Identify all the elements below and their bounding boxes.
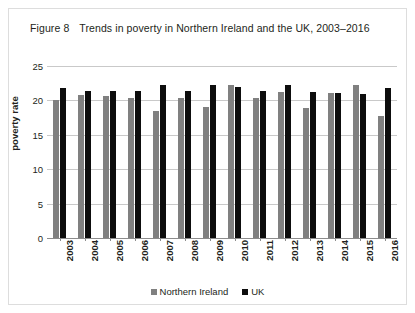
bar-northern-ireland-2009 xyxy=(203,107,209,238)
bars-layer xyxy=(47,66,397,238)
legend-entry-northern-ireland: Northern Ireland xyxy=(151,286,229,297)
bar-uk-2008 xyxy=(185,91,191,238)
bar-northern-ireland-2014 xyxy=(328,93,334,238)
bar-uk-2011 xyxy=(260,91,266,238)
bar-northern-ireland-2008 xyxy=(178,98,184,238)
bar-group-2014 xyxy=(322,66,347,238)
bar-group-2007 xyxy=(147,66,172,238)
x-tick-mark-2011 xyxy=(260,238,261,241)
x-tick-label-2009: 2009 xyxy=(214,240,225,261)
figure-title-text: Trends in poverty in Northern Ireland an… xyxy=(79,22,369,34)
bar-northern-ireland-2012 xyxy=(278,92,284,238)
x-tick-label-2004: 2004 xyxy=(89,240,100,261)
chart-legend: Northern IrelandUK xyxy=(0,286,415,297)
legend-swatch-icon xyxy=(151,289,157,295)
bar-uk-2004 xyxy=(85,91,91,238)
x-tick-mark-2015 xyxy=(360,238,361,241)
y-tick-label-0: 0 xyxy=(0,233,43,244)
bar-uk-2013 xyxy=(310,92,316,238)
x-tick-mark-2005 xyxy=(110,238,111,241)
x-tick-label-2011: 2011 xyxy=(264,240,275,261)
x-tick-label-2013: 2013 xyxy=(314,240,325,261)
bar-northern-ireland-2013 xyxy=(303,108,309,238)
x-tick-mark-2009 xyxy=(210,238,211,241)
x-tick-label-2006: 2006 xyxy=(139,240,150,261)
bar-uk-2006 xyxy=(135,91,141,238)
bar-northern-ireland-2004 xyxy=(78,95,84,238)
y-tick-label-10: 10 xyxy=(0,164,43,175)
bar-uk-2005 xyxy=(110,91,116,238)
figure-label: Figure 8 xyxy=(30,22,69,34)
bar-group-2004 xyxy=(72,66,97,238)
x-tick-label-2008: 2008 xyxy=(189,240,200,261)
x-tick-mark-2010 xyxy=(235,238,236,241)
bar-group-2008 xyxy=(172,66,197,238)
x-tick-label-2003: 2003 xyxy=(64,240,75,261)
bar-northern-ireland-2015 xyxy=(353,85,359,238)
bar-uk-2003 xyxy=(60,88,66,238)
bar-group-2016 xyxy=(372,66,397,238)
x-tick-mark-2007 xyxy=(160,238,161,241)
bar-group-2012 xyxy=(272,66,297,238)
bar-uk-2015 xyxy=(360,94,366,238)
bar-northern-ireland-2011 xyxy=(253,98,259,238)
legend-label: UK xyxy=(251,286,264,297)
x-tick-mark-2012 xyxy=(285,238,286,241)
bar-northern-ireland-2007 xyxy=(153,111,159,238)
x-tick-label-2015: 2015 xyxy=(364,240,375,261)
x-tick-label-2014: 2014 xyxy=(339,240,350,261)
y-tick-label-15: 15 xyxy=(0,129,43,140)
x-tick-label-2016: 2016 xyxy=(389,240,400,261)
bar-northern-ireland-2016 xyxy=(378,116,384,238)
x-tick-mark-2013 xyxy=(310,238,311,241)
bar-group-2009 xyxy=(197,66,222,238)
y-axis-tick-labels: 0510152025 xyxy=(0,66,43,238)
legend-label: Northern Ireland xyxy=(160,286,229,297)
x-tick-label-2010: 2010 xyxy=(239,240,250,261)
x-tick-mark-2004 xyxy=(85,238,86,241)
bar-northern-ireland-2010 xyxy=(228,85,234,238)
x-tick-label-2012: 2012 xyxy=(289,240,300,261)
bar-group-2006 xyxy=(122,66,147,238)
bar-group-2015 xyxy=(347,66,372,238)
bar-northern-ireland-2006 xyxy=(128,98,134,238)
bar-uk-2012 xyxy=(285,85,291,238)
bar-uk-2009 xyxy=(210,85,216,238)
x-tick-mark-2008 xyxy=(185,238,186,241)
bar-uk-2007 xyxy=(160,85,166,238)
bar-uk-2010 xyxy=(235,87,241,238)
y-tick-label-5: 5 xyxy=(0,198,43,209)
x-tick-mark-2014 xyxy=(335,238,336,241)
legend-entry-uk: UK xyxy=(242,286,264,297)
bar-group-2013 xyxy=(297,66,322,238)
x-tick-label-2005: 2005 xyxy=(114,240,125,261)
bar-uk-2016 xyxy=(385,88,391,238)
y-tick-label-20: 20 xyxy=(0,95,43,106)
x-tick-mark-2006 xyxy=(135,238,136,241)
bar-northern-ireland-2003 xyxy=(53,100,59,238)
legend-swatch-icon xyxy=(242,289,248,295)
bar-group-2005 xyxy=(97,66,122,238)
bar-uk-2014 xyxy=(335,93,341,238)
x-axis-tick-labels: 2003200420052006200720082009201020112012… xyxy=(47,238,397,280)
bar-group-2003 xyxy=(47,66,72,238)
bar-group-2010 xyxy=(222,66,247,238)
x-tick-label-2007: 2007 xyxy=(164,240,175,261)
y-tick-label-25: 25 xyxy=(0,61,43,72)
bar-group-2011 xyxy=(247,66,272,238)
plot-area xyxy=(47,66,397,238)
x-tick-mark-2003 xyxy=(60,238,61,241)
chart-title: Figure 8Trends in poverty in Northern Ir… xyxy=(30,22,370,34)
bar-northern-ireland-2005 xyxy=(103,96,109,238)
figure-card: Figure 8Trends in poverty in Northern Ir… xyxy=(0,0,415,313)
x-tick-mark-2016 xyxy=(385,238,386,241)
